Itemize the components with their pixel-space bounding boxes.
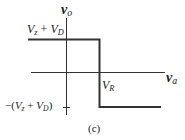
step-curve	[28, 40, 161, 108]
threshold-label: VR	[102, 79, 114, 94]
upper-level-label: Vz + VD	[27, 23, 64, 38]
figure-caption: (c)	[88, 123, 100, 134]
y-axis-label: vo	[61, 3, 72, 18]
transfer-characteristic-plot	[0, 0, 185, 140]
x-axis-label: va	[166, 71, 177, 86]
lower-level-label: −(Vz + VD)	[5, 100, 52, 113]
